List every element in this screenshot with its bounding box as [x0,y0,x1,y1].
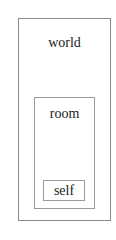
world-label: world [19,35,110,51]
self-box: self [43,180,85,201]
room-label: room [35,106,94,122]
self-label: self [44,183,84,199]
